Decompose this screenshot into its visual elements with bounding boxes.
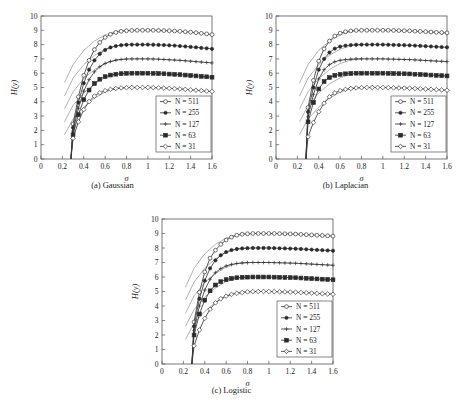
x-tick-label: 0.4 [200,367,210,376]
y-tick-label: 2 [155,331,159,340]
x-tick-label: 0.6 [100,162,110,171]
y-tick-label: 6 [269,69,273,78]
y-tick-label: 1 [34,140,38,149]
x-tick-label: 1 [381,162,385,171]
x-tick-label: 0 [160,367,164,376]
x-tick-label: 1.6 [207,162,217,171]
x-tick-label: 0.2 [293,162,303,171]
y-tick-label: 5 [155,287,159,296]
x-tick-label: 0.2 [58,162,68,171]
x-tick-label: 1.2 [165,162,175,171]
y-tick-label: 10 [151,215,159,224]
y-tick-label: 7 [34,55,38,64]
y-tick-label: 9 [155,229,159,238]
y-tick-label: 2 [34,126,38,135]
y-tick-label: 0 [34,155,38,164]
legend-label: N = 511 [410,97,434,106]
y-tick-label: 10 [30,12,38,21]
legend-label: N = 511 [296,302,320,311]
x-tick-label: 1 [267,367,271,376]
legend: N = 511N = 255N = 127N = 63N = 31 [156,96,211,152]
y-tick-label: 5 [269,83,273,92]
subplot-caption-logistic: (c) Logistic [114,385,349,395]
y-axis-label: H(y) [245,80,254,97]
x-tick-label: 1.2 [286,367,296,376]
y-tick-label: 8 [34,40,38,49]
y-tick-label: 9 [34,26,38,35]
legend-label: N = 511 [175,97,199,106]
legend-label: N = 255 [410,108,435,117]
legend-label: N = 127 [410,120,435,129]
x-tick-label: 0.6 [221,367,231,376]
legend-label: N = 127 [296,325,321,334]
legend-label: N = 31 [296,347,317,356]
y-tick-label: 5 [34,83,38,92]
legend-label: N = 63 [175,131,196,140]
y-tick-label: 1 [269,140,273,149]
x-tick-label: 0.4 [314,162,324,171]
plot-canvas-logistic: 01234567891000.20.40.60.811.21.41.6σH(y)… [114,203,349,405]
x-tick-label: 0.2 [179,367,189,376]
plot-canvas-laplacian: 01234567891000.20.40.60.811.21.41.6σH(y)… [228,0,463,200]
figure-entropy-vs-sigma: 01234567891000.20.40.60.811.21.41.6σH(y)… [0,0,463,405]
x-tick-label: 1.4 [307,367,317,376]
y-tick-label: 3 [155,316,159,325]
y-tick-label: 9 [269,26,273,35]
subplot-laplacian: 01234567891000.20.40.60.811.21.41.6σH(y)… [228,0,463,200]
y-tick-label: 10 [265,12,273,21]
legend: N = 511N = 255N = 127N = 63N = 31 [277,301,332,357]
y-tick-label: 4 [155,302,159,311]
y-tick-label: 3 [269,112,273,121]
x-tick-label: 1.4 [421,162,431,171]
x-tick-label: 1.6 [328,367,338,376]
y-tick-label: 6 [34,69,38,78]
y-tick-label: 4 [34,97,38,106]
x-tick-label: 0.8 [357,162,367,171]
subplot-gaussian: 01234567891000.20.40.60.811.21.41.6σH(y)… [0,0,225,200]
legend: N = 511N = 255N = 127N = 63N = 31 [391,96,446,152]
y-tick-label: 0 [269,155,273,164]
legend-label: N = 127 [175,120,200,129]
legend-label: N = 63 [296,336,317,345]
x-tick-label: 1.2 [400,162,410,171]
y-tick-label: 8 [155,244,159,253]
y-tick-label: 0 [155,360,159,369]
legend-label: N = 255 [296,313,321,322]
y-axis-label: H(y) [131,284,140,301]
subplot-caption-laplacian: (b) Laplacian [228,180,463,190]
y-tick-label: 3 [34,112,38,121]
y-tick-label: 1 [155,345,159,354]
legend-label: N = 31 [175,142,196,151]
y-tick-label: 2 [269,126,273,135]
x-tick-label: 1.4 [186,162,196,171]
legend-label: N = 31 [410,142,431,151]
y-axis-label: H(y) [10,80,19,97]
y-tick-label: 8 [269,40,273,49]
x-tick-label: 0.8 [243,367,253,376]
x-tick-label: 0.4 [79,162,89,171]
legend-label: N = 255 [175,108,200,117]
legend-label: N = 63 [410,131,431,140]
plot-canvas-gaussian: 01234567891000.20.40.60.811.21.41.6σH(y)… [0,0,225,200]
y-tick-label: 7 [269,55,273,64]
x-tick-label: 0 [39,162,43,171]
y-tick-label: 7 [155,258,159,267]
y-tick-label: 6 [155,273,159,282]
x-tick-label: 1.6 [442,162,452,171]
x-tick-label: 1 [146,162,150,171]
y-tick-label: 4 [269,97,273,106]
x-tick-label: 0.8 [122,162,132,171]
x-tick-label: 0.6 [335,162,345,171]
subplot-logistic: 01234567891000.20.40.60.811.21.41.6σH(y)… [114,203,349,405]
x-tick-label: 0 [274,162,278,171]
subplot-caption-gaussian: (a) Gaussian [0,180,225,190]
